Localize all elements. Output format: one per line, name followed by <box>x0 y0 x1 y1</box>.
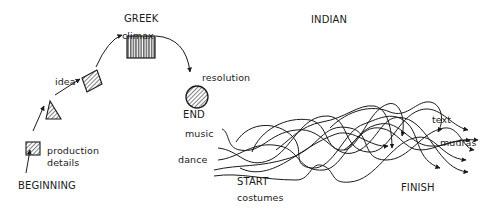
music-label: music <box>185 129 214 139</box>
production-details-node <box>26 142 40 155</box>
beginning-label: BEGINNING <box>18 181 76 191</box>
mudras-label: mudras <box>440 138 477 148</box>
text-label: text <box>432 115 451 125</box>
costumes-label: costumes <box>237 193 284 203</box>
production-label: production <box>47 146 99 156</box>
end-label: END <box>183 110 205 120</box>
idea-node <box>46 101 61 119</box>
dance-label: dance <box>178 155 207 165</box>
idea-box-node <box>82 70 102 92</box>
indian-title: INDIAN <box>311 15 347 25</box>
climax-label: climax <box>122 31 154 41</box>
end-node <box>186 86 208 108</box>
details-label: details <box>47 158 79 168</box>
greek-title: GREEK <box>124 14 158 24</box>
resolution-label: resolution <box>202 73 250 83</box>
start-label: START <box>237 177 268 187</box>
finish-label: FINISH <box>401 183 435 193</box>
idea-label: idea <box>55 77 76 87</box>
